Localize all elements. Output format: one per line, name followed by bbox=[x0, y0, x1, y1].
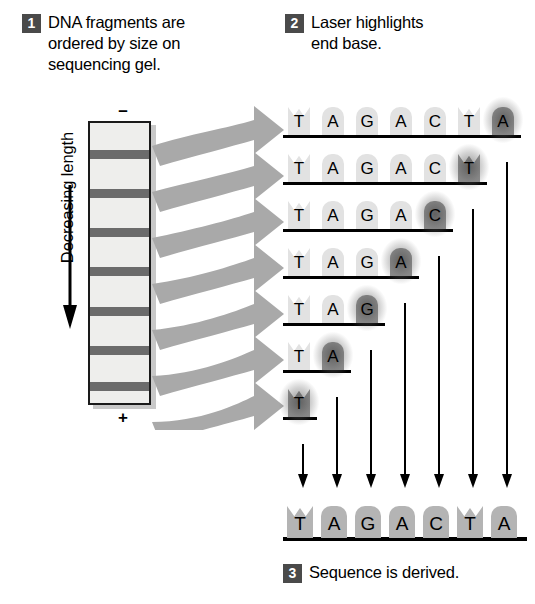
derived-sequence-row: TAGACTA bbox=[283, 500, 535, 546]
gel-negative-electrode-label: – bbox=[88, 104, 158, 118]
drop-arrow-head bbox=[332, 474, 342, 488]
gel-positive-electrode-label: + bbox=[88, 411, 158, 425]
base-letter: A bbox=[327, 112, 338, 131]
base-letter: A bbox=[395, 206, 406, 225]
step-1-badge: 1 bbox=[22, 14, 41, 33]
step-3-caption: 3 Sequence is derived. bbox=[283, 562, 523, 583]
base-letter: T bbox=[294, 206, 304, 225]
base-letter: G bbox=[360, 112, 373, 131]
base-letter: T bbox=[464, 112, 474, 131]
base-letter: A bbox=[395, 253, 406, 272]
step-2-badge: 2 bbox=[285, 14, 304, 33]
base-letter: C bbox=[429, 206, 441, 225]
base-letter: T bbox=[294, 253, 304, 272]
drop-arrow-head bbox=[298, 474, 308, 488]
base-tile: G bbox=[353, 504, 383, 538]
step-1-caption: 1 DNA fragments are ordered by size on s… bbox=[22, 12, 252, 75]
gel-band bbox=[90, 307, 149, 316]
base-letter: C bbox=[429, 513, 443, 534]
sequencing-gel: – + bbox=[88, 104, 158, 429]
base-letter: A bbox=[396, 513, 409, 534]
base-letter: A bbox=[327, 206, 338, 225]
base-letter: G bbox=[360, 253, 373, 272]
base-letter: A bbox=[327, 300, 338, 319]
gel-band bbox=[90, 346, 149, 355]
base-letter: A bbox=[497, 112, 508, 131]
drop-arrow-head bbox=[366, 474, 376, 488]
base-letter: A bbox=[327, 159, 338, 178]
base-letter: T bbox=[294, 112, 304, 131]
decreasing-length-arrow-icon bbox=[62, 185, 78, 330]
base-letter: T bbox=[294, 394, 304, 413]
gel-band bbox=[90, 150, 149, 159]
base-tile: C bbox=[421, 504, 451, 538]
base-letter: G bbox=[360, 206, 373, 225]
base-letter: A bbox=[498, 513, 511, 534]
base-letter: C bbox=[429, 112, 441, 131]
base-letter: A bbox=[327, 347, 338, 366]
base-letter: T bbox=[294, 159, 304, 178]
step-3-badge: 3 bbox=[283, 564, 302, 583]
base-letter: T bbox=[464, 513, 476, 534]
gel-band bbox=[90, 228, 149, 237]
base-letter: G bbox=[361, 513, 376, 534]
base-tile: A bbox=[489, 504, 519, 538]
base-letter: G bbox=[360, 159, 373, 178]
step-2-text: Laser highlights end base. bbox=[311, 12, 423, 54]
gel-lane bbox=[88, 121, 151, 405]
read-direction-arrows bbox=[283, 120, 535, 495]
base-letter: A bbox=[395, 159, 406, 178]
base-letter: T bbox=[464, 159, 474, 178]
base-letter: A bbox=[327, 253, 338, 272]
base-tile: T bbox=[285, 504, 315, 538]
base-tile: A bbox=[387, 504, 417, 538]
step-1-text: DNA fragments are ordered by size on seq… bbox=[48, 12, 185, 75]
base-letter: A bbox=[395, 112, 406, 131]
base-tile: T bbox=[455, 504, 485, 538]
base-letter: A bbox=[328, 513, 341, 534]
gel-band bbox=[90, 382, 149, 391]
step-2-caption: 2 Laser highlights end base. bbox=[285, 12, 525, 54]
base-letter: G bbox=[360, 300, 373, 319]
base-letter: C bbox=[429, 159, 441, 178]
base-tile: A bbox=[319, 504, 349, 538]
base-letter: T bbox=[294, 300, 304, 319]
drop-arrow-head bbox=[434, 474, 444, 488]
drop-arrow-head bbox=[468, 474, 478, 488]
gel-band bbox=[90, 267, 149, 276]
base-letter: T bbox=[294, 513, 306, 534]
base-letter: T bbox=[294, 347, 304, 366]
drop-arrow-head bbox=[400, 474, 410, 488]
step-3-text: Sequence is derived. bbox=[309, 562, 459, 583]
gel-to-sequence-arrows bbox=[150, 100, 295, 430]
gel-band bbox=[90, 189, 149, 198]
drop-arrow-head bbox=[502, 474, 512, 488]
